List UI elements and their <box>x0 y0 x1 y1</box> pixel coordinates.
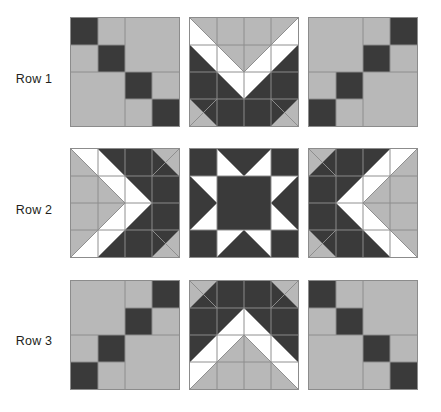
quilt-block-r1c1 <box>70 17 180 127</box>
row-label-2: Row 2 <box>0 203 68 217</box>
quilt-block-r1c3 <box>308 17 418 127</box>
quilt-block-r2c1 <box>70 148 180 258</box>
row-label-3: Row 3 <box>0 334 68 348</box>
quilt-block-r1c2 <box>189 17 299 127</box>
quilt-block-r3c2 <box>189 280 299 390</box>
quilt-block-r3c3 <box>308 280 418 390</box>
quilt-block-r3c1 <box>70 280 180 390</box>
quilt-block-r2c2 <box>189 148 299 258</box>
row-label-1: Row 1 <box>0 72 68 86</box>
quilt-layout-diagram: Row 1 Row 2 Row 3 <box>0 0 441 412</box>
quilt-block-r2c3 <box>308 148 418 258</box>
